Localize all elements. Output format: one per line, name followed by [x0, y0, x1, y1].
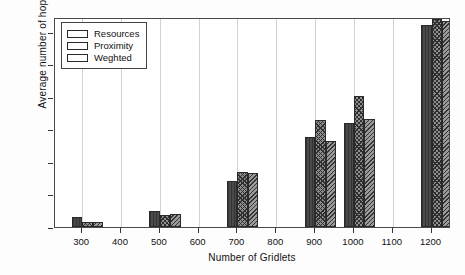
y-tick-20 [48, 163, 53, 164]
legend-item-weghted: Weghted [67, 52, 139, 63]
x-tick-400 [120, 228, 121, 233]
x-tick-700 [236, 228, 237, 233]
grid-line-500 [160, 19, 161, 227]
bar-500-resources [149, 211, 159, 227]
legend-swatch-icon-weghted [67, 54, 88, 62]
x-tick-label-1200: 1200 [401, 236, 461, 247]
bar-1000-weghted [364, 119, 374, 227]
bar-1200-proximity [432, 19, 442, 227]
y-axis-label: Average number of hops [37, 0, 48, 162]
grid-line-1100 [393, 19, 394, 227]
x-tick-1200 [431, 228, 432, 233]
legend-swatch-icon-proximity [67, 42, 88, 50]
legend-item-resources: Resources [67, 28, 139, 39]
bar-700-resources [227, 181, 237, 227]
x-tick-600 [198, 228, 199, 233]
y-tick-10 [48, 195, 53, 196]
legend-swatch-icon-resources [67, 30, 88, 38]
grid-line-800 [276, 19, 277, 227]
chart-legend: ResourcesProximityWeghted [61, 22, 147, 69]
bar-300-resources [72, 217, 82, 227]
y-tick-30 [48, 130, 53, 131]
bar-300-proximity [82, 222, 92, 227]
x-axis-label: Number of Gridlets [54, 252, 450, 263]
x-tick-1100 [392, 228, 393, 233]
legend-item-proximity: Proximity [67, 40, 139, 51]
x-tick-300 [81, 228, 82, 233]
x-tick-1000 [353, 228, 354, 233]
x-tick-800 [275, 228, 276, 233]
x-tick-500 [159, 228, 160, 233]
bar-700-weghted [248, 173, 258, 227]
y-tick-40 [48, 98, 53, 99]
bar-300-weghted [93, 222, 103, 227]
grid-line-600 [199, 19, 200, 227]
legend-label: Resources [94, 29, 139, 39]
bar-1000-resources [344, 123, 354, 227]
y-tick-0 [48, 228, 53, 229]
bar-900-weghted [326, 141, 336, 227]
y-tick-60 [48, 33, 53, 34]
x-tick-900 [314, 228, 315, 233]
bar-900-resources [305, 137, 315, 227]
bar-700-proximity [237, 172, 247, 227]
bar-500-proximity [160, 215, 170, 227]
bar-900-proximity [315, 120, 325, 227]
legend-label: Weghted [94, 53, 132, 63]
legend-label: Proximity [94, 41, 133, 51]
bar-500-weghted [170, 214, 180, 227]
bar-chart-figure: Average number of hops Number of Gridlet… [0, 0, 465, 275]
bar-1200-weghted [442, 21, 450, 227]
bar-1200-resources [421, 25, 431, 227]
y-tick-50 [48, 65, 53, 66]
bar-1000-proximity [354, 96, 364, 227]
